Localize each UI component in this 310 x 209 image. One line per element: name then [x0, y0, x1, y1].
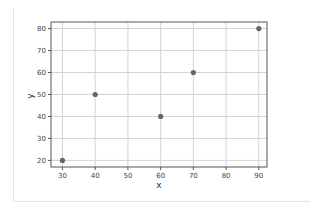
y-tick-label: 20	[37, 157, 46, 165]
data-point	[93, 92, 98, 97]
x-tick-label: 40	[91, 172, 100, 180]
x-tick-label: 80	[222, 172, 231, 180]
x-tick-label: 90	[254, 172, 263, 180]
data-point	[256, 26, 261, 31]
scatter-chart: 30405060708090 20304050607080 x y	[0, 0, 310, 209]
y-axis-ticks: 20304050607080	[37, 25, 51, 165]
data-point	[60, 158, 65, 163]
x-tick-label: 50	[123, 172, 132, 180]
y-tick-label: 40	[37, 113, 46, 121]
y-tick-label: 50	[37, 91, 46, 99]
grid-lines	[51, 22, 267, 167]
y-tick-label: 70	[37, 47, 46, 55]
y-axis-label: y	[25, 93, 35, 99]
y-tick-label: 60	[37, 69, 46, 77]
data-point	[158, 114, 163, 119]
y-tick-label: 30	[37, 135, 46, 143]
x-tick-label: 60	[156, 172, 165, 180]
x-axis-ticks: 30405060708090	[58, 167, 263, 180]
x-tick-label: 70	[189, 172, 198, 180]
y-tick-label: 80	[37, 25, 46, 33]
x-axis-label: x	[156, 180, 162, 190]
x-tick-label: 30	[58, 172, 67, 180]
data-point	[191, 70, 196, 75]
